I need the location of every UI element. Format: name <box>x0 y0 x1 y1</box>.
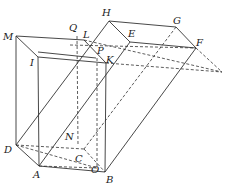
label-I: I <box>29 57 35 68</box>
geometry-diagram: M Q L H E G F I P K N D C A O B <box>0 0 231 185</box>
label-D: D <box>3 144 12 155</box>
label-B: B <box>105 174 113 185</box>
label-E: E <box>127 28 136 39</box>
label-O: O <box>91 164 99 175</box>
slanted-prism <box>16 21 222 172</box>
label-Q: Q <box>69 22 77 33</box>
label-M: M <box>2 31 14 42</box>
label-C: C <box>75 153 83 164</box>
label-F: F <box>195 37 204 48</box>
label-H: H <box>101 7 111 18</box>
label-G: G <box>173 15 181 26</box>
label-A: A <box>32 169 40 180</box>
point-labels: M Q L H E G F I P K N D C A O B <box>2 7 204 185</box>
label-L: L <box>82 29 90 40</box>
label-P: P <box>96 45 104 56</box>
label-N: N <box>64 131 75 142</box>
label-K: K <box>105 54 114 65</box>
